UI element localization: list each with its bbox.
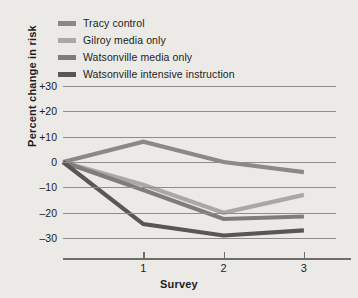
gridline xyxy=(63,137,336,138)
y-axis-tick-label: +10 xyxy=(39,131,57,143)
legend-item-watsonville-intensive-instruction: Watsonville intensive instruction xyxy=(58,67,235,81)
y-axis-tick-labels: +30+20+100–10–20–30 xyxy=(26,86,57,238)
y-axis-tick-label: –10 xyxy=(39,181,57,193)
y-axis-tick-label: 0 xyxy=(51,156,57,168)
x-axis-line xyxy=(63,258,351,260)
legend-item-label: Watsonville intensive instruction xyxy=(83,69,235,80)
x-axis-tick-label: 2 xyxy=(221,262,227,274)
y-axis-tick-label: –30 xyxy=(39,232,57,244)
legend-item-watsonville-media-only: Watsonville media only xyxy=(58,50,235,64)
legend-item-gilroy-media-only: Gilroy media only xyxy=(58,33,235,47)
line-chart: Tracy control Gilroy media only Watsonvi… xyxy=(0,0,358,298)
x-axis-tick-label: 1 xyxy=(140,262,146,274)
legend-item-tracy-control: Tracy control xyxy=(58,16,235,30)
legend-swatch-icon xyxy=(58,55,76,60)
series-line xyxy=(63,142,304,172)
x-axis-tick xyxy=(224,252,226,259)
chart-legend: Tracy control Gilroy media only Watsonvi… xyxy=(58,16,235,84)
legend-item-label: Watsonville media only xyxy=(83,52,192,63)
legend-swatch-icon xyxy=(58,38,76,43)
x-axis-tick xyxy=(304,252,306,259)
legend-swatch-icon xyxy=(58,72,76,77)
y-axis-tick-label: –20 xyxy=(39,207,57,219)
plot-area xyxy=(63,86,336,238)
gridline xyxy=(63,187,336,188)
gridline xyxy=(63,86,336,87)
gridline xyxy=(63,213,336,214)
y-axis-tick-label: +20 xyxy=(39,105,57,117)
legend-item-label: Gilroy media only xyxy=(83,35,166,46)
y-axis-tick-label: +30 xyxy=(39,80,57,92)
x-axis-tick xyxy=(143,252,145,259)
x-axis-tick-label: 3 xyxy=(301,262,307,274)
legend-swatch-icon xyxy=(58,21,76,26)
gridline xyxy=(63,238,336,239)
gridline xyxy=(63,162,336,163)
x-axis-title: Survey xyxy=(0,278,358,290)
legend-item-label: Tracy control xyxy=(83,18,145,29)
gridline xyxy=(63,111,336,112)
